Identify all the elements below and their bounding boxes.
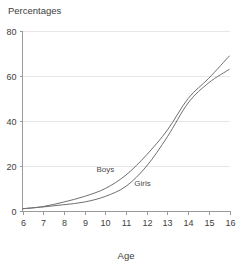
percentages-by-age-line-chart: Percentages 020406080 678910111213141516… (0, 0, 240, 271)
x-tick-label-7: 7 (41, 218, 46, 228)
x-tick-label-11: 11 (122, 218, 131, 228)
y-tick-label-20: 20 (6, 162, 16, 172)
x-axis-title: Age (118, 250, 135, 261)
x-tick-label-15: 15 (204, 218, 214, 228)
x-tick-label-8: 8 (62, 218, 67, 228)
chart-background (0, 0, 240, 271)
x-tick-label-6: 6 (21, 218, 26, 228)
y-tick-label-80: 80 (6, 27, 16, 37)
chart-title: Percentages (8, 5, 62, 16)
x-tick-label-16: 16 (225, 218, 235, 228)
series-label-girls: Girls (134, 179, 150, 188)
y-tick-label-60: 60 (6, 72, 16, 82)
x-tick-label-9: 9 (83, 218, 88, 228)
x-tick-label-12: 12 (142, 218, 152, 228)
series-label-boys: Boys (96, 165, 114, 174)
x-tick-label-14: 14 (183, 218, 193, 228)
y-tick-label-40: 40 (6, 117, 16, 127)
x-tick-label-10: 10 (100, 218, 110, 228)
y-tick-label-0: 0 (11, 207, 16, 217)
chart-container: Percentages 020406080 678910111213141516… (0, 0, 240, 271)
x-tick-label-13: 13 (162, 218, 172, 228)
